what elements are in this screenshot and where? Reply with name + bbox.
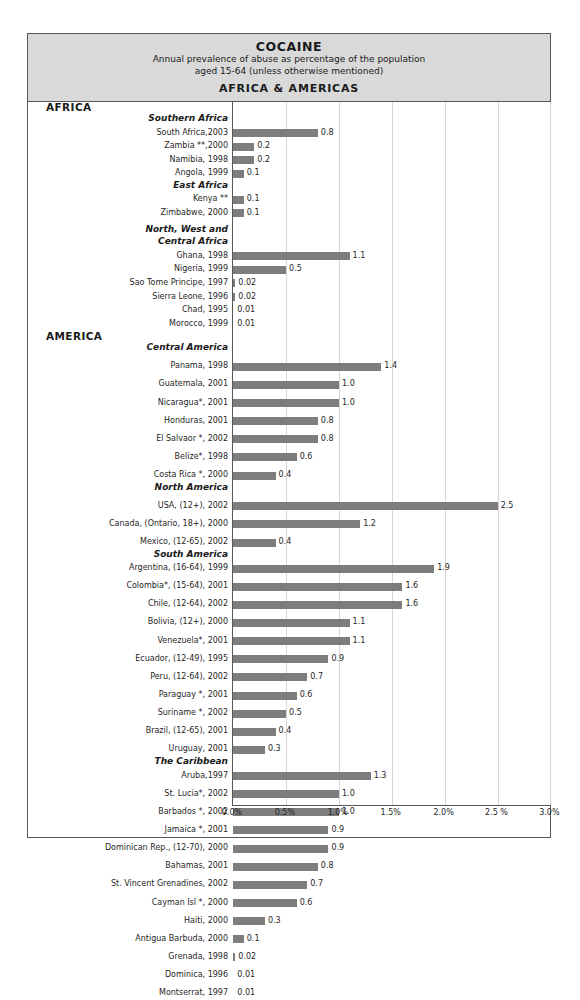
heading-label: Central Africa — [158, 236, 228, 246]
table-row: Brazil, (12-65), 20010.4 — [28, 725, 550, 739]
bar — [233, 417, 318, 425]
table-row: South Africa,20030.8 — [28, 127, 550, 141]
table-row: Dominica, 19960.01 — [28, 969, 550, 983]
bar — [233, 790, 339, 798]
table-row: Kenya **0.1 — [28, 193, 550, 207]
bar — [233, 539, 275, 547]
bar-value-label: 1.0 — [342, 398, 355, 407]
bar — [233, 863, 318, 871]
bar — [233, 845, 328, 853]
chart-frame: COCAINE Annual prevalence of abuse as pe… — [27, 33, 551, 838]
table-row: Uruguay, 20010.3 — [28, 743, 550, 757]
table-row: Haiti, 20000.3 — [28, 915, 550, 929]
country-label: Aruba,1997 — [0, 771, 228, 780]
heading-label: AFRICA — [46, 101, 92, 113]
region-title: AFRICA & AMERICAS — [28, 82, 550, 96]
bar-value-label: 0.2 — [257, 155, 270, 164]
bar — [233, 746, 265, 754]
bar — [233, 637, 349, 645]
bar — [233, 209, 244, 217]
table-row: Suriname *, 20020.5 — [28, 707, 550, 721]
bar — [233, 565, 434, 573]
table-row: Chad, 19950.01 — [28, 304, 550, 318]
country-label: Montserrat, 1997 — [0, 988, 228, 997]
country-label: Chile, (12-64), 2002 — [0, 599, 228, 608]
bar-value-label: 1.4 — [384, 361, 397, 370]
bar-value-label: 0.1 — [247, 934, 260, 943]
bar-value-label: 0.8 — [321, 416, 334, 425]
group-heading: North, West and — [28, 225, 550, 238]
bar — [233, 520, 360, 528]
group-heading: Central Africa — [28, 237, 550, 250]
table-row: Nicaragua*, 20011.0 — [28, 397, 550, 411]
heading-label: Central America — [146, 342, 228, 352]
bar — [233, 583, 402, 591]
bar-value-label: 0.01 — [237, 970, 255, 979]
country-label: Sierra Leone, 1996 — [0, 292, 228, 301]
heading-label: The Caribbean — [155, 756, 228, 766]
group-heading: East Africa — [28, 181, 550, 194]
bar — [233, 156, 254, 164]
table-row: USA, (12+), 20022.5 — [28, 500, 550, 514]
bar-value-label: 0.3 — [268, 916, 281, 925]
bar — [233, 472, 275, 480]
country-label: Uruguay, 2001 — [0, 744, 228, 753]
bar — [233, 143, 254, 151]
bar-value-label: 0.02 — [238, 952, 256, 961]
bar — [233, 293, 235, 301]
table-row: Angola, 19990.1 — [28, 167, 550, 181]
bar — [233, 953, 235, 961]
bar-value-label: 1.0 — [342, 789, 355, 798]
table-row: Zambia **,20000.2 — [28, 140, 550, 154]
region-heading: AMERICA — [28, 331, 550, 343]
table-row: Morocco, 19990.01 — [28, 318, 550, 332]
country-label: Canada, (Ontario, 18+), 2000 — [0, 519, 228, 528]
bar-value-label: 0.1 — [247, 194, 260, 203]
bar — [233, 935, 244, 943]
bar-value-label: 1.1 — [353, 251, 366, 260]
bar-value-label: 0.8 — [321, 434, 334, 443]
country-label: Honduras, 2001 — [0, 416, 228, 425]
table-row: Venezuela*, 20011.1 — [28, 635, 550, 649]
bar-value-label: 1.1 — [353, 636, 366, 645]
country-label: St. Vincent Grenadines, 2002 — [0, 879, 228, 888]
country-label: Argentina, (16-64), 1999 — [0, 563, 228, 572]
bar-value-label: 0.9 — [331, 654, 344, 663]
bar-value-label: 0.02 — [238, 278, 256, 287]
group-heading: Central America — [28, 343, 550, 356]
bar-value-label: 0.02 — [238, 292, 256, 301]
group-heading: The Caribbean — [28, 757, 550, 770]
bar — [233, 196, 244, 204]
bar — [233, 881, 307, 889]
bar-value-label: 1.2 — [363, 519, 376, 528]
country-label: Cayman Isl *, 2000 — [0, 898, 228, 907]
table-row: Bahamas, 20010.8 — [28, 860, 550, 874]
bar-value-label: 0.5 — [289, 264, 302, 273]
heading-label: Southern Africa — [148, 113, 228, 123]
x-axis: 0.0%0.5%1.0%1.5%2.0%2.5 %3.0% — [232, 808, 550, 824]
bar-value-label: 0.8 — [321, 128, 334, 137]
table-row: Cayman Isl *, 20000.6 — [28, 897, 550, 911]
country-label: Paraguay *, 2001 — [0, 690, 228, 699]
table-row: Mexico, (12-65), 20020.4 — [28, 536, 550, 550]
country-label: Jamaica *, 2001 — [0, 825, 228, 834]
table-row: Aruba,19971.3 — [28, 770, 550, 784]
table-row: Panama, 19981.4 — [28, 360, 550, 374]
x-axis-tick-label: 3.0% — [539, 808, 559, 817]
bar — [233, 453, 296, 461]
bar — [233, 692, 296, 700]
bar-value-label: 0.4 — [279, 537, 292, 546]
country-label: South Africa,2003 — [0, 128, 228, 137]
table-row: Montserrat, 19970.01 — [28, 987, 550, 1000]
country-label: Sao Tome Principe, 1997 — [0, 278, 228, 287]
subtitle-line-1: Annual prevalence of abuse as percentage… — [28, 54, 550, 66]
bar — [233, 279, 235, 287]
table-row: Guatemala, 20011.0 — [28, 378, 550, 392]
table-row: Grenada, 19980.02 — [28, 951, 550, 965]
x-axis-tick-label: 1.0% — [328, 808, 348, 817]
country-label: Namibia, 1998 — [0, 155, 228, 164]
bar-value-label: 0.1 — [247, 208, 260, 217]
country-label: Bolivia, (12+), 2000 — [0, 617, 228, 626]
bar-value-label: 0.6 — [300, 452, 313, 461]
country-label: Guatemala, 2001 — [0, 379, 228, 388]
